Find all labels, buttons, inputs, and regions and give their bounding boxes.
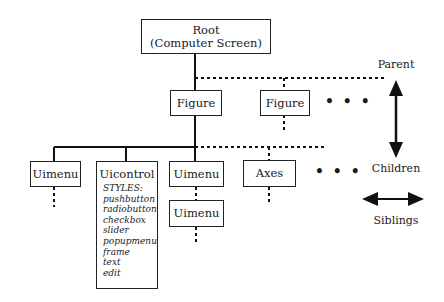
uimenu-node-2-label: Uimenu (174, 168, 220, 181)
root-node-subtitle: (Computer Screen) (150, 37, 262, 50)
legend-parent-label: Parent (372, 58, 420, 71)
uimenu-node-1-label: Uimenu (33, 168, 79, 181)
axes-node-label: Axes (256, 167, 284, 180)
figure-node-2-label: Figure (266, 97, 305, 110)
style-item: frame (103, 247, 157, 258)
figure-node-1: Figure (170, 90, 222, 116)
style-item: popupmenu (103, 236, 157, 247)
uimenu-node-3-label: Uimenu (174, 207, 220, 220)
figure-node-1-label: Figure (177, 97, 216, 110)
style-item: pushbutton (103, 194, 157, 205)
uicontrol-node: Uicontrol STYLES: pushbutton radiobutton… (96, 161, 158, 289)
parent-children-arrow-icon (389, 80, 403, 158)
uicontrol-styles-list: STYLES: pushbutton radiobutton checkbox … (103, 183, 157, 278)
root-node-title: Root (192, 24, 219, 37)
style-item: edit (103, 268, 157, 279)
legend-siblings-label: Siblings (368, 214, 424, 227)
styles-header: STYLES: (103, 183, 157, 194)
root-node: Root (Computer Screen) (141, 19, 271, 54)
uimenu-node-1: Uimenu (30, 161, 81, 187)
axes-node: Axes (243, 160, 296, 187)
uicontrol-node-label: Uicontrol (100, 168, 155, 181)
style-item: radiobutton (103, 204, 157, 215)
style-item: text (103, 257, 157, 268)
uimenu-node-2: Uimenu (169, 161, 224, 187)
siblings-arrow-icon (362, 192, 424, 206)
ellipsis-figures-icon: • • • (325, 96, 372, 106)
style-item: slider (103, 225, 157, 236)
style-item: checkbox (103, 215, 157, 226)
legend-children-label: Children (368, 162, 424, 175)
uimenu-node-3: Uimenu (169, 200, 224, 227)
ellipsis-children-icon: • • • (315, 166, 362, 176)
figure-node-2: Figure (260, 90, 310, 116)
